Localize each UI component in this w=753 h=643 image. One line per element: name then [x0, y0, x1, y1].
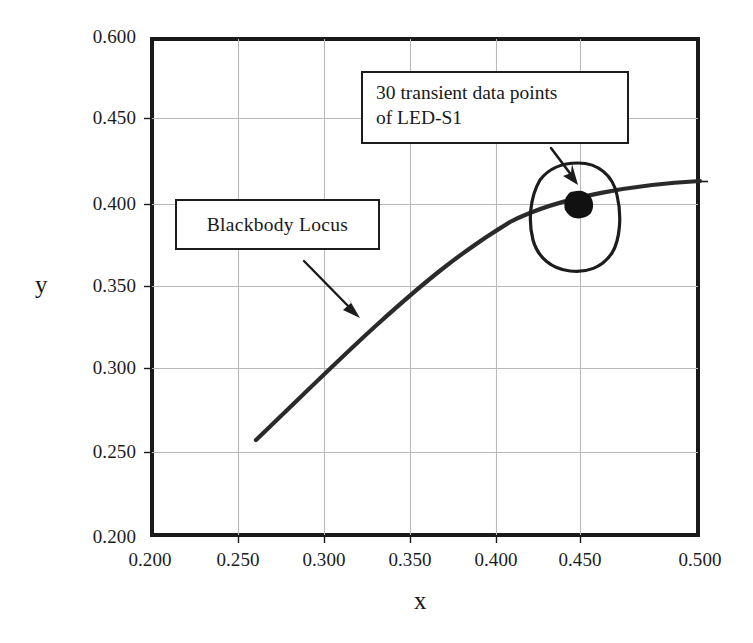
- y-tick-label-0400: 0.400: [62, 193, 136, 215]
- x-tick-label-0250: 0.250: [201, 549, 275, 571]
- annotation-blackbody-box: Blackbody Locus: [175, 199, 380, 250]
- annotation-datapoints-box: 30 transient data points of LED-S1: [361, 71, 629, 144]
- y-tick-label-0350: 0.350: [62, 275, 136, 297]
- y-axis-title: y: [35, 271, 48, 299]
- x-tick-label-0350: 0.350: [373, 549, 447, 571]
- x-axis-ticks: [239, 537, 581, 543]
- x-tick-label-0400: 0.400: [459, 549, 533, 571]
- y-tick-label-0600: 0.600: [62, 26, 136, 48]
- y-tick-label-0250: 0.250: [62, 441, 136, 463]
- y-tick-label-0450: 0.450: [62, 107, 136, 129]
- chromaticity-figure: 0.600 0.450 0.400 0.350 0.300 0.250 0.20…: [0, 0, 753, 643]
- x-tick-label-0500: 0.500: [663, 549, 737, 571]
- x-axis-title: x: [414, 587, 427, 615]
- y-tick-label-0200: 0.200: [62, 526, 136, 548]
- y-tick-label-0300: 0.300: [62, 357, 136, 379]
- x-tick-label-0300: 0.300: [287, 549, 361, 571]
- x-tick-label-0450: 0.450: [543, 549, 617, 571]
- x-tick-label-0200: 0.200: [113, 549, 187, 571]
